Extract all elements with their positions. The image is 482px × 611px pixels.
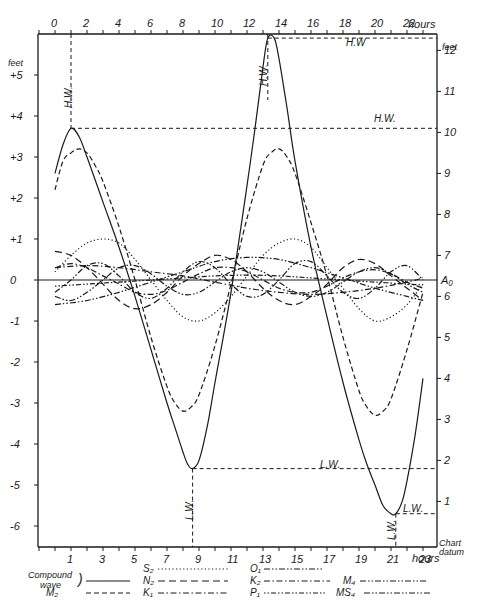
left-tick-label: +3 bbox=[10, 151, 23, 163]
right-tick-label: 11 bbox=[444, 85, 455, 97]
left-tick-label: -4 bbox=[10, 438, 20, 450]
left-tick-label: +4 bbox=[10, 110, 23, 122]
left-feet-label: feet bbox=[8, 58, 24, 68]
bottom-tick-label: 3 bbox=[99, 553, 106, 565]
bottom-tick-label: 7 bbox=[163, 553, 170, 565]
left-tick-label: +2 bbox=[10, 192, 23, 204]
legend-label-n-: N₂ bbox=[143, 575, 154, 586]
legend-label-ms-: MS₄ bbox=[336, 587, 355, 598]
bottom-tick-label: 21 bbox=[386, 553, 399, 565]
right-tick-label: 10 bbox=[444, 126, 457, 138]
chart-datum-label-2: datum bbox=[439, 547, 465, 557]
left-tick-label: 0 bbox=[10, 274, 17, 286]
bottom-tick-label: 15 bbox=[291, 553, 304, 565]
top-hours-label: hours bbox=[408, 18, 436, 30]
right-tick-label: 8 bbox=[444, 208, 451, 220]
lw-low-label: L.W. bbox=[403, 503, 423, 514]
left-tick-label: -5 bbox=[10, 479, 21, 491]
legend-label-k-: K₂ bbox=[250, 575, 261, 586]
right-tick-label: 4 bbox=[444, 372, 450, 384]
series-m2 bbox=[55, 149, 423, 416]
right-tick-label: 7 bbox=[444, 249, 451, 261]
hw-top-label: H.W bbox=[346, 37, 367, 48]
bottom-tick-label: 11 bbox=[227, 553, 238, 565]
right-tick-label: 1 bbox=[444, 495, 450, 507]
series-ms4 bbox=[55, 265, 423, 300]
right-tick-label: 9 bbox=[444, 167, 450, 179]
tidal-harmonic-chart: 02468101214161820221357911131517192123+5… bbox=[0, 0, 482, 611]
legend-label-k-: K₁ bbox=[143, 587, 153, 598]
bottom-tick-label: 5 bbox=[131, 553, 138, 565]
right-tick-label: 2 bbox=[443, 454, 450, 466]
top-tick-label: 2 bbox=[82, 17, 89, 29]
lw-mid-label: L.W. bbox=[320, 459, 340, 470]
left-tick-label: -3 bbox=[10, 397, 21, 409]
hw-mid-label: H.W. bbox=[374, 113, 396, 124]
legend-label-o-: O₁ bbox=[250, 563, 261, 574]
right-tick-label: 5 bbox=[444, 331, 451, 343]
top-tick-label: 8 bbox=[179, 17, 186, 29]
top-tick-label: 6 bbox=[147, 17, 154, 29]
legend-label-m-: M₄ bbox=[343, 575, 355, 586]
lw-right-vertical-label: L.W. bbox=[386, 520, 397, 540]
hw-right-vertical-label: H.W. bbox=[258, 64, 269, 86]
top-tick-label: 10 bbox=[211, 17, 224, 29]
legend: Compound wave ) M₂S₂N₂K₁O₁K₂P₁M₄MS₄ bbox=[28, 563, 430, 598]
legend-label-s-: S₂ bbox=[143, 563, 154, 574]
top-tick-label: 0 bbox=[51, 17, 58, 29]
bottom-hours-label: hours bbox=[412, 552, 440, 564]
bottom-tick-label: 17 bbox=[323, 553, 336, 565]
legend-brace: ) bbox=[76, 571, 83, 587]
bottom-tick-label: 9 bbox=[195, 553, 201, 565]
labels: hours hours feet feet A₀ Chart datum H.W… bbox=[8, 18, 465, 564]
top-tick-label: 12 bbox=[243, 17, 255, 29]
right-feet-label: feet bbox=[442, 42, 458, 52]
a0-label: A₀ bbox=[440, 274, 453, 286]
legend-compound-label-1: Compound bbox=[28, 570, 73, 580]
legend-label-m-: M₂ bbox=[46, 587, 58, 598]
left-tick-label: -1 bbox=[10, 315, 20, 327]
axis-ticks: 02468101214161820221357911131517192123+5… bbox=[10, 17, 457, 565]
lw-left-vertical-label: L.W. bbox=[184, 500, 195, 520]
legend-label-p-: P₁ bbox=[250, 587, 260, 598]
hw-left-vertical-label: H.W. bbox=[63, 86, 74, 108]
right-tick-label: 6 bbox=[444, 290, 451, 302]
right-tick-label: 3 bbox=[444, 413, 451, 425]
series-compound-wave bbox=[55, 35, 423, 515]
top-tick-label: 14 bbox=[275, 17, 287, 29]
series-p1 bbox=[55, 275, 423, 286]
left-tick-label: -6 bbox=[10, 520, 21, 532]
top-tick-label: 20 bbox=[370, 17, 384, 29]
bottom-tick-label: 19 bbox=[355, 553, 367, 565]
left-tick-label: +5 bbox=[10, 69, 23, 81]
bottom-tick-label: 1 bbox=[67, 553, 73, 565]
bottom-tick-label: 13 bbox=[259, 553, 272, 565]
top-tick-label: 18 bbox=[339, 17, 352, 29]
top-tick-label: 4 bbox=[115, 17, 121, 29]
curves bbox=[55, 35, 423, 515]
left-tick-label: -2 bbox=[10, 356, 20, 368]
top-tick-label: 16 bbox=[307, 17, 320, 29]
left-tick-label: +1 bbox=[10, 233, 23, 245]
